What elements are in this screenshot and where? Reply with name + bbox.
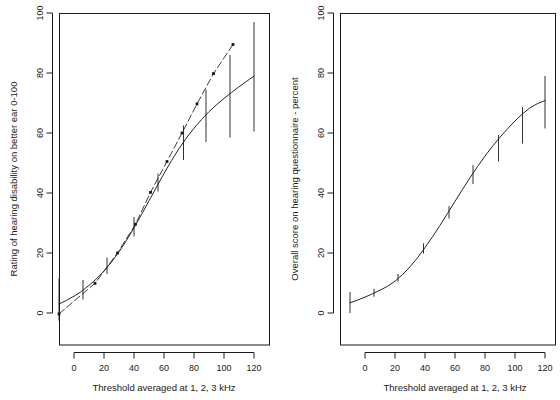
left-y-ticklabel-40: 40 [35, 188, 45, 198]
data-point-marker [181, 132, 184, 135]
left-x-ticklabel-120: 120 [246, 363, 261, 373]
data-point-marker [149, 191, 152, 194]
left-y-ticklabel-100: 100 [35, 5, 45, 20]
left-x-ticklabel-60: 60 [159, 363, 169, 373]
right-y-ticklabel-60: 60 [316, 128, 326, 138]
right-x-ticklabel-100: 100 [507, 363, 522, 373]
right-x-ticklabels: 0 20 40 60 80 100 120 [362, 363, 552, 373]
right-y-ticklabel-40: 40 [316, 188, 326, 198]
left-x-axis [74, 353, 254, 359]
left-x-ticklabel-80: 80 [189, 363, 199, 373]
right-x-ticklabel-80: 80 [480, 363, 490, 373]
right-x-axis-title: Threshold averaged at 1, 2, 3 kHz [383, 382, 526, 393]
right-x-ticklabel-40: 40 [420, 363, 430, 373]
left-panel-svg: 100 80 60 40 20 0 0 [0, 0, 280, 400]
figure-container: 100 80 60 40 20 0 0 [0, 0, 560, 400]
left-y-ticklabel-20: 20 [35, 248, 45, 258]
right-y-ticklabel-0: 0 [316, 310, 326, 315]
right-plot-frame [341, 14, 556, 346]
data-point-marker [212, 72, 215, 75]
right-x-ticklabel-20: 20 [390, 363, 400, 373]
right-y-axis [328, 13, 334, 313]
right-panel: 100 80 60 40 20 0 0 20 40 [280, 0, 560, 400]
data-point-marker [196, 103, 199, 106]
left-plot-frame [60, 14, 270, 346]
left-y-ticklabel-80: 80 [35, 68, 45, 78]
data-point-marker [166, 160, 169, 163]
right-y-ticklabels: 100 80 60 40 20 0 [316, 5, 326, 315]
right-y-ticklabel-20: 20 [316, 248, 326, 258]
data-point-marker [232, 43, 235, 46]
left-y-ticklabel-0: 0 [35, 310, 45, 315]
data-point-marker [116, 252, 119, 255]
right-panel-svg: 100 80 60 40 20 0 0 20 40 [280, 0, 560, 400]
series-line [59, 76, 254, 304]
left-y-axis [47, 13, 53, 313]
right-y-ticklabel-80: 80 [316, 68, 326, 78]
right-x-ticklabel-120: 120 [537, 363, 552, 373]
left-panel: 100 80 60 40 20 0 0 [0, 0, 280, 400]
right-x-ticklabel-60: 60 [450, 363, 460, 373]
series-line [59, 45, 233, 314]
right-x-axis [365, 353, 545, 359]
left-x-ticklabel-0: 0 [71, 363, 76, 373]
left-x-axis-title: Threshold averaged at 1, 2, 3 kHz [92, 382, 235, 393]
right-x-ticklabel-0: 0 [362, 363, 367, 373]
left-x-ticklabels: 0 20 40 60 80 100 120 [71, 363, 261, 373]
series-line [350, 101, 545, 303]
left-x-ticklabel-40: 40 [129, 363, 139, 373]
left-x-ticklabel-20: 20 [99, 363, 109, 373]
data-point-marker [94, 282, 97, 285]
right-plot-data [350, 76, 545, 313]
left-y-ticklabels: 100 80 60 40 20 0 [35, 5, 45, 315]
left-y-ticklabel-60: 60 [35, 128, 45, 138]
data-point-marker [134, 223, 137, 226]
right-y-ticklabel-100: 100 [316, 5, 326, 20]
left-plot-data [58, 22, 254, 321]
right-y-axis-title: Overall score on hearing questionnaire -… [289, 77, 300, 281]
data-point-marker [58, 313, 61, 316]
left-y-axis-title: Rating of hearing disability on better e… [8, 82, 19, 277]
left-x-ticklabel-100: 100 [216, 363, 231, 373]
